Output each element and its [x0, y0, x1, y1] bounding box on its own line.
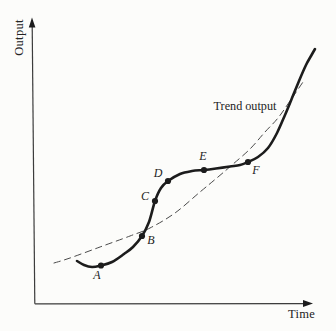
point-dot-e	[201, 167, 207, 173]
x-axis-arrowhead-icon	[303, 300, 313, 307]
point-labels-group: ABCDEF	[92, 149, 260, 282]
x-axis-label: Time	[288, 307, 315, 321]
axes	[29, 18, 313, 308]
actual-output-curve	[77, 49, 315, 267]
point-label-e: E	[198, 149, 207, 163]
point-dot-f	[245, 159, 251, 165]
business-cycle-chart: Output Time Trend output ABCDEF	[0, 0, 336, 331]
trend-output-annotation: Trend output	[214, 99, 277, 113]
point-label-c: C	[141, 189, 150, 203]
point-label-f: F	[251, 163, 260, 177]
point-dot-c	[152, 198, 158, 204]
y-axis-label: Output	[12, 19, 26, 56]
point-dot-b	[139, 233, 145, 239]
y-axis-line	[32, 25, 35, 304]
business-cycle-figure: Output Time Trend output ABCDEF	[0, 0, 336, 331]
y-axis-arrowhead-icon	[29, 18, 36, 28]
actual-output-curve-group	[77, 49, 315, 267]
point-label-b: B	[147, 233, 155, 247]
point-label-a: A	[92, 268, 101, 282]
point-label-d: D	[153, 166, 163, 180]
point-dot-d	[165, 178, 171, 184]
